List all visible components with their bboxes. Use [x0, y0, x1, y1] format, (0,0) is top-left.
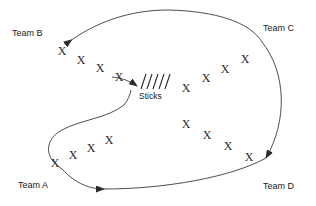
stick-mark-2: [147, 74, 152, 89]
team-b-player-4: X: [115, 70, 124, 84]
diagram-canvas: Sticks Team A X X X X Team B X X X X Tea…: [0, 0, 316, 206]
team-d-label: Team D: [263, 181, 295, 191]
flow-arrow-bottom: [62, 169, 104, 189]
team-d-player-3: X: [224, 139, 233, 153]
relay-formation-diagram: Sticks Team A X X X X Team B X X X X Tea…: [0, 0, 316, 206]
stick-mark-4: [159, 74, 164, 89]
sticks-label: Sticks: [139, 91, 162, 101]
team-a-player-2: X: [69, 148, 78, 162]
team-a-player-3: X: [87, 141, 96, 155]
team-c-player-4: X: [241, 52, 250, 66]
team-b-player-2: X: [77, 53, 86, 67]
team-b-player-3: X: [96, 61, 105, 75]
flow-arrow-bottom-tail: [104, 158, 266, 189]
team-b-group: Team B X X X X: [12, 28, 124, 84]
flow-arrow-top-head-segment: [66, 10, 168, 44]
team-d-player-2: X: [203, 128, 212, 142]
stick-mark-5: [165, 74, 170, 89]
team-b-player-1: X: [58, 44, 67, 58]
team-a-player-1: X: [51, 156, 60, 170]
flow-arrow-sticks-lower-hook: [124, 90, 131, 105]
team-a-label: Team A: [18, 180, 48, 190]
flow-arrow-top: [168, 10, 262, 42]
team-c-player-1: X: [182, 81, 191, 95]
team-d-player-4: X: [245, 150, 254, 164]
stick-mark-3: [153, 74, 158, 89]
team-b-label: Team B: [12, 28, 43, 38]
team-c-group: Team C X X X X: [182, 23, 295, 95]
team-c-player-3: X: [221, 62, 230, 76]
team-d-player-1: X: [182, 117, 191, 131]
flow-arrow-right: [262, 42, 281, 158]
stick-mark-1: [141, 74, 146, 89]
team-a-group: Team A X X X X: [18, 133, 114, 190]
sticks-pile-group: Sticks: [139, 74, 170, 101]
team-a-player-4: X: [105, 133, 114, 147]
team-c-player-2: X: [202, 71, 211, 85]
team-c-label: Team C: [263, 23, 295, 33]
